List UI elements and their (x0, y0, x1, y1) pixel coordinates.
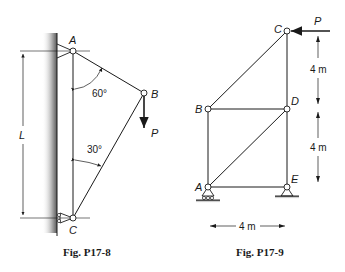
joint-c (284, 28, 290, 34)
dimension-label-lower: 4 m (310, 142, 327, 153)
dim-arrow-right (279, 224, 285, 228)
dim-arrow-mid-up (316, 112, 320, 118)
figure-caption-p17-9: Fig. P17-9 (236, 246, 284, 258)
node-label-a: A (194, 181, 202, 193)
angle-label-30: 30° (87, 144, 102, 155)
member-ad (208, 109, 287, 187)
figure-caption-p17-8: Fig. P17-8 (63, 246, 111, 258)
node-label-d: D (291, 95, 299, 107)
dim-arrow-top (316, 36, 320, 42)
figure-p17-9: P 4 m 4 m 4 m C B D A E Fig. P17-9 (194, 15, 330, 258)
member-bc (73, 93, 144, 218)
figure-p17-8: L 60° 30° P A B C Fig. P17-8 (19, 33, 159, 258)
load-label-p: P (151, 127, 159, 139)
dim-arrow-mid-down (316, 98, 320, 104)
angle-arc-60 (75, 68, 102, 89)
dimension-label-horizontal: 4 m (239, 221, 256, 232)
node-label-b: B (195, 103, 202, 115)
member-bc (208, 31, 287, 109)
joint-e (284, 184, 290, 190)
angle-arc-30 (75, 160, 101, 166)
joint-d (284, 106, 290, 112)
joint-a (205, 184, 211, 190)
node-label-b: B (151, 88, 158, 100)
joint-c (70, 215, 76, 221)
dim-arrow-bottom (316, 176, 320, 182)
node-label-e: E (291, 173, 299, 185)
dimension-label-l: L (19, 129, 25, 141)
wall (42, 33, 57, 233)
node-label-c: C (274, 23, 282, 35)
dim-arrow-left (210, 224, 216, 228)
node-label-a: A (68, 34, 76, 46)
node-label-c: C (69, 224, 77, 236)
load-label-p: P (314, 15, 322, 27)
dimension-label-upper: 4 m (310, 64, 327, 75)
joint-b (205, 106, 211, 112)
diagram-canvas: L 60° 30° P A B C Fig. P17-8 (0, 0, 345, 272)
angle-label-60: 60° (92, 88, 107, 99)
joint-b (141, 90, 147, 96)
joint-a (70, 48, 76, 54)
